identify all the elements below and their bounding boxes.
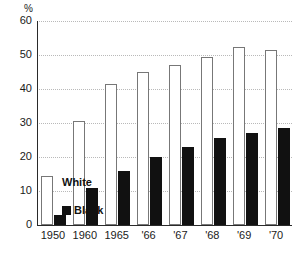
- legend-item-white: White: [62, 177, 92, 188]
- x-axis-tick-label: '70: [260, 229, 292, 241]
- y-axis-tick-label: 20: [0, 151, 32, 162]
- bar-series-group: [37, 21, 292, 225]
- y-axis-tick-label: 10: [0, 185, 32, 196]
- y-axis-tick-label: 50: [0, 49, 32, 60]
- x-axis-tick-label: '67: [165, 229, 197, 241]
- x-axis-tick-label: '66: [133, 229, 165, 241]
- bar-white: [105, 84, 117, 225]
- legend-label-white: White: [62, 176, 92, 188]
- bar-black: [118, 171, 130, 225]
- y-axis-tick-label: 0: [0, 219, 32, 230]
- y-axis-tick-label: 60: [0, 15, 32, 26]
- bar-white: [169, 65, 181, 225]
- x-axis-tick-label: '68: [196, 229, 228, 241]
- bar-white: [265, 50, 277, 225]
- x-axis-tick-label: 1950: [37, 229, 69, 241]
- bar-white: [233, 47, 245, 226]
- bar-white: [41, 176, 53, 225]
- y-axis-unit-label: %: [24, 4, 33, 14]
- bar-chart: % 0102030405060 195019601965'66'67'68'69…: [0, 0, 299, 257]
- bar-black: [54, 215, 66, 225]
- bar-black: [150, 157, 162, 225]
- x-axis-tick-label: 1960: [69, 229, 101, 241]
- x-axis-tick-label: 1965: [101, 229, 133, 241]
- y-axis-tick-label: 30: [0, 117, 32, 128]
- bar-black: [278, 128, 290, 225]
- legend-label-black: Black: [74, 204, 103, 216]
- bar-black: [214, 138, 226, 225]
- bar-black: [246, 133, 258, 225]
- legend-swatch-black-icon: [62, 206, 71, 215]
- bar-black: [182, 147, 194, 225]
- legend-item-black: Black: [62, 205, 103, 216]
- x-axis-line: [37, 225, 292, 226]
- bar-white: [201, 57, 213, 225]
- bar-white: [137, 72, 149, 225]
- y-axis-tick-label: 40: [0, 83, 32, 94]
- x-axis-tick-label: '69: [228, 229, 260, 241]
